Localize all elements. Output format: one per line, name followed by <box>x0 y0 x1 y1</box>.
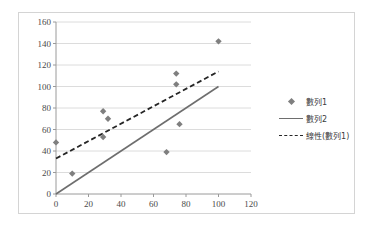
diamond-marker-icon <box>278 97 304 107</box>
y-tick-label: 20 <box>42 168 51 177</box>
x-tick-label: 40 <box>117 200 126 209</box>
dashed-line-icon <box>278 131 304 141</box>
series-line-datalie2 <box>56 87 219 195</box>
legend-label-series1: 數列1 <box>304 96 327 107</box>
y-tick-label: 0 <box>47 190 52 199</box>
scatter-point <box>69 170 75 176</box>
legend-label-series2: 數列2 <box>304 113 327 124</box>
legend-item-series2[interactable]: 數列2 <box>278 110 370 127</box>
scatter-point <box>176 121 182 127</box>
y-tick-label: 60 <box>42 125 51 134</box>
legend-label-trendline: 線性(數列1) <box>304 130 349 141</box>
solid-line-icon <box>278 114 304 124</box>
x-tick-label: 100 <box>212 200 226 209</box>
plot-area: 020406080100120140160 020406080100120 <box>56 22 251 194</box>
scatter-point <box>53 139 59 145</box>
trendline-linear-series1 <box>56 71 219 158</box>
y-tick-label: 160 <box>38 18 52 27</box>
y-tick-label: 100 <box>38 82 52 91</box>
gridlines <box>56 22 251 173</box>
scatter-point <box>173 70 179 76</box>
x-tick-label: 0 <box>54 200 59 209</box>
y-tick-label: 40 <box>42 147 51 156</box>
x-tick-label: 120 <box>244 200 258 209</box>
chart-frame: 020406080100120140160 020406080100120 數列… <box>18 12 355 214</box>
x-tick-label: 80 <box>182 200 191 209</box>
x-tick-label: 60 <box>149 200 158 209</box>
plot-canvas <box>56 22 251 194</box>
y-tick-label: 140 <box>38 39 52 48</box>
scatter-points-series1 <box>53 38 222 177</box>
scatter-point <box>105 116 111 122</box>
legend-item-trendline[interactable]: 線性(數列1) <box>278 127 370 144</box>
x-tick-label: 20 <box>84 200 93 209</box>
y-tick-label: 120 <box>38 61 52 70</box>
chart-legend: 數列1 數列2 線性(數列1) <box>278 93 370 144</box>
scatter-point <box>163 149 169 155</box>
y-tick-label: 80 <box>42 104 51 113</box>
scatter-point <box>100 108 106 114</box>
legend-item-series1[interactable]: 數列1 <box>278 93 370 110</box>
